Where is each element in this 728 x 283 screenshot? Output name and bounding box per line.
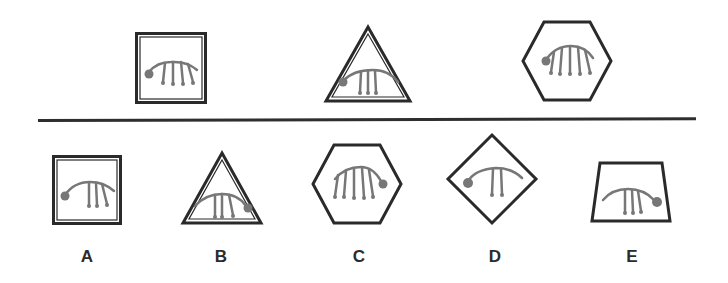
comb-glyph-icon: [542, 46, 594, 76]
option-b-triangle[interactable]: [180, 150, 264, 226]
hexagon-frame-icon: [311, 143, 403, 225]
option-a-label: A: [72, 247, 102, 267]
comb-glyph-icon: [603, 189, 662, 215]
sequence-figure-1-square: [135, 32, 207, 104]
sequence-figure-2-triangle: [323, 24, 413, 104]
comb-glyph-icon: [333, 167, 388, 200]
square-frame-icon: [52, 155, 122, 225]
square-frame-icon: [135, 32, 207, 104]
triangle-frame-icon: [323, 24, 413, 104]
comb-glyph-icon: [195, 194, 253, 219]
diamond-frame-icon: [446, 133, 538, 225]
comb-glyph-icon: [339, 70, 399, 95]
option-e-trapezoid[interactable]: [590, 160, 672, 224]
option-c-hexagon[interactable]: [311, 143, 403, 225]
divider-line: [38, 117, 696, 122]
triangle-frame-icon: [180, 150, 264, 226]
option-d-label: D: [480, 247, 510, 267]
option-e-label: E: [617, 247, 647, 267]
comb-glyph-icon: [61, 182, 115, 208]
hexagon-frame-icon: [521, 20, 613, 102]
option-c-label: C: [344, 247, 374, 267]
option-b-label: B: [206, 247, 236, 267]
comb-glyph-icon: [145, 62, 198, 86]
option-a-square[interactable]: [52, 155, 122, 225]
option-d-diamond[interactable]: [446, 133, 538, 225]
trapezoid-frame-icon: [590, 160, 672, 224]
comb-glyph-icon: [463, 168, 522, 197]
sequence-figure-3-hexagon: [521, 20, 613, 102]
